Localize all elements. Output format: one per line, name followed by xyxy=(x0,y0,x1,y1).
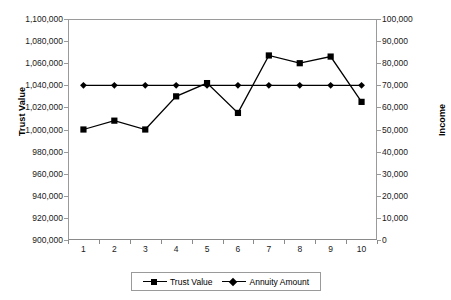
data-point-marker xyxy=(111,82,118,89)
data-point-marker xyxy=(328,53,334,59)
chart-container: Trust Value Income 900,000920,000940,000… xyxy=(0,0,451,300)
x-axis-tick-label: 2 xyxy=(112,244,117,254)
x-axis-tick-label: 10 xyxy=(357,244,366,254)
x-axis-tick-label: 9 xyxy=(328,244,333,254)
data-point-marker xyxy=(173,93,179,99)
data-point-marker xyxy=(142,126,148,132)
diamond-marker-icon xyxy=(222,277,246,286)
chart-legend: Trust ValueAnnuity Amount xyxy=(131,272,321,291)
x-axis-labels: 12345678910 xyxy=(68,244,377,258)
data-point-marker xyxy=(235,82,242,89)
data-point-marker xyxy=(358,99,364,105)
legend-label: Trust Value xyxy=(170,277,213,287)
square-marker-icon xyxy=(143,277,167,286)
data-point-marker xyxy=(297,60,303,66)
x-axis-tick-label: 8 xyxy=(297,244,302,254)
data-series-1 xyxy=(80,52,364,132)
data-point-marker xyxy=(173,82,180,89)
data-point-marker xyxy=(80,82,87,89)
data-point-marker xyxy=(80,126,86,132)
data-point-marker xyxy=(142,82,149,89)
x-axis-tick-label: 1 xyxy=(81,244,86,254)
legend-entry-1: Trust Value xyxy=(143,277,213,287)
data-point-marker xyxy=(296,82,303,89)
data-point-marker xyxy=(111,118,117,124)
legend-label: Annuity Amount xyxy=(249,277,309,287)
data-point-marker xyxy=(235,110,241,116)
x-axis-tick-label: 4 xyxy=(174,244,179,254)
x-axis-tick-label: 6 xyxy=(236,244,241,254)
data-point-marker xyxy=(265,82,272,89)
x-axis-tick-label: 7 xyxy=(266,244,271,254)
series-line xyxy=(83,55,361,129)
data-point-marker xyxy=(358,82,365,89)
data-series-2 xyxy=(80,82,365,89)
legend-entry-2: Annuity Amount xyxy=(222,277,309,287)
data-point-marker xyxy=(266,52,272,58)
x-axis-tick-label: 5 xyxy=(205,244,210,254)
x-axis-tick-label: 3 xyxy=(143,244,148,254)
data-point-marker xyxy=(327,82,334,89)
